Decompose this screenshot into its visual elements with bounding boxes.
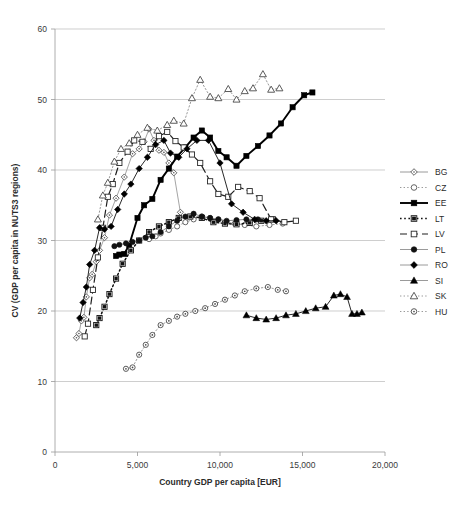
data-point-inner <box>138 354 140 356</box>
data-point-circle-filled <box>216 217 221 222</box>
series-line-EE <box>116 92 312 256</box>
legend-label-LV: LV <box>435 229 445 239</box>
data-point-circle-filled <box>224 218 229 223</box>
data-point-square-filled <box>224 155 229 160</box>
legend-item-LT[interactable]: LT <box>400 214 444 224</box>
data-point-inner <box>83 317 85 319</box>
data-point-diamond-filled <box>108 223 114 229</box>
data-point-square-filled <box>244 153 249 158</box>
data-point-triangle-open <box>134 131 141 137</box>
legend-item-RO[interactable]: RO <box>400 260 448 270</box>
data-point-inner <box>121 262 124 265</box>
data-point-circle-filled <box>411 247 417 253</box>
legend-item-SI[interactable]: SI <box>400 276 443 286</box>
data-point-inner <box>78 333 80 335</box>
legend-label-LT: LT <box>435 214 444 224</box>
data-point-inner <box>103 305 106 308</box>
data-point-square-open <box>82 334 87 339</box>
legend-item-LV[interactable]: LV <box>400 229 445 239</box>
data-point-inner <box>104 237 106 239</box>
data-point-triangle-filled <box>359 309 366 315</box>
data-point-inner <box>173 172 175 174</box>
legend-item-PL[interactable]: PL <box>400 245 446 255</box>
legend-item-EE[interactable]: EE <box>400 198 447 208</box>
data-point-circle-filled <box>158 229 163 234</box>
data-point-inner <box>163 152 165 154</box>
data-point-inner <box>212 220 215 223</box>
legend-label-RO: RO <box>435 260 448 270</box>
data-point-circle-open <box>183 220 188 225</box>
y-axis-title: CV (GDP per capita in NUTS3 regions) <box>10 163 20 317</box>
data-point-triangle-open <box>170 117 177 123</box>
x-tick-label: 10,000 <box>207 460 233 470</box>
legend-label-CZ: CZ <box>435 183 446 193</box>
data-point-inner <box>413 171 415 173</box>
legend-item-BG[interactable]: BG <box>400 167 447 177</box>
data-point-circle-open <box>411 185 417 191</box>
series-line-HU <box>126 287 286 369</box>
data-point-square-filled <box>135 215 140 220</box>
data-point-square-filled <box>278 121 283 126</box>
data-point-inner <box>157 225 160 228</box>
data-point-circle-open <box>254 224 259 229</box>
data-point-square-filled <box>302 93 307 98</box>
y-tick-label: 20 <box>38 306 48 316</box>
data-point-inner <box>248 221 251 224</box>
data-point-square-filled <box>142 203 147 208</box>
data-point-square-filled <box>310 90 315 95</box>
x-tick-label: 15,000 <box>290 460 316 470</box>
data-point-square-open <box>208 179 213 184</box>
data-point-triangle-open <box>250 85 257 91</box>
data-point-inner <box>95 323 98 326</box>
tick-labels: 010203040506005,00010,00015,00020,000 <box>38 24 399 470</box>
series-SI <box>243 291 365 322</box>
y-tick-label: 0 <box>42 447 47 457</box>
legend[interactable]: BGCZEELTLVPLROSISKHU <box>400 167 448 317</box>
data-point-square-filled <box>122 251 127 256</box>
data-point-square-filled <box>255 143 260 148</box>
legend-label-HU: HU <box>435 307 447 317</box>
data-point-square-filled <box>290 105 295 110</box>
data-point-circle-filled <box>234 217 239 222</box>
data-point-square-open <box>216 191 221 196</box>
data-point-square-open <box>165 129 170 134</box>
data-point-inner <box>204 307 206 309</box>
data-point-square-open <box>282 220 287 225</box>
legend-item-SK[interactable]: SK <box>400 291 447 301</box>
series-line-SK <box>98 74 280 219</box>
data-point-diamond-filled <box>136 165 142 171</box>
series-EE <box>113 90 315 259</box>
data-point-triangle-open <box>259 71 266 77</box>
legend-item-CZ[interactable]: CZ <box>400 183 446 193</box>
series-HU <box>123 284 288 371</box>
data-point-inner <box>285 290 287 292</box>
data-point-inner <box>167 220 170 223</box>
data-point-circle-filled <box>166 224 171 229</box>
legend-label-SK: SK <box>435 291 447 301</box>
legend-label-BG: BG <box>435 167 447 177</box>
legend-label-SI: SI <box>435 276 443 286</box>
data-point-square-filled <box>234 163 239 168</box>
data-point-inner <box>194 310 196 312</box>
data-point-triangle-filled <box>337 291 344 297</box>
data-point-square-filled <box>166 166 171 171</box>
data-point-square-filled <box>150 196 155 201</box>
data-point-square-filled <box>216 148 221 153</box>
data-point-triangle-open <box>207 93 214 99</box>
data-point-triangle-filled <box>344 294 351 300</box>
data-point-square-open <box>189 152 194 157</box>
data-point-inner <box>277 289 279 291</box>
data-point-square-open <box>293 218 298 223</box>
data-point-circle-open <box>267 222 272 227</box>
data-point-diamond-filled <box>167 150 173 156</box>
data-point-inner <box>153 140 155 142</box>
legend-item-HU[interactable]: HU <box>400 307 447 317</box>
axes <box>51 29 385 456</box>
data-point-inner <box>125 368 127 370</box>
data-point-square-open <box>257 196 262 201</box>
chart-container: 010203040506005,00010,00015,00020,000 Co… <box>0 0 473 505</box>
data-point-inner <box>267 286 269 288</box>
data-point-inner <box>132 153 134 155</box>
data-point-square-open <box>125 149 130 154</box>
data-point-inner <box>114 277 117 280</box>
